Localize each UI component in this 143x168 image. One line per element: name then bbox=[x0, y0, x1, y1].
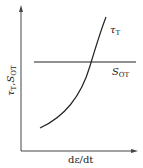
diagram: τT SOT dε/dt τT,SOT bbox=[0, 0, 143, 168]
sot-label: SOT bbox=[112, 66, 130, 79]
y-axis-arrow-icon bbox=[19, 5, 23, 12]
y-axis-label: τT,SOT bbox=[5, 65, 18, 96]
tau-t-curve bbox=[40, 17, 106, 128]
x-axis-arrow-icon bbox=[131, 149, 138, 153]
tau-t-label: τT bbox=[110, 24, 121, 37]
x-axis-label: dε/dt bbox=[68, 154, 93, 165]
